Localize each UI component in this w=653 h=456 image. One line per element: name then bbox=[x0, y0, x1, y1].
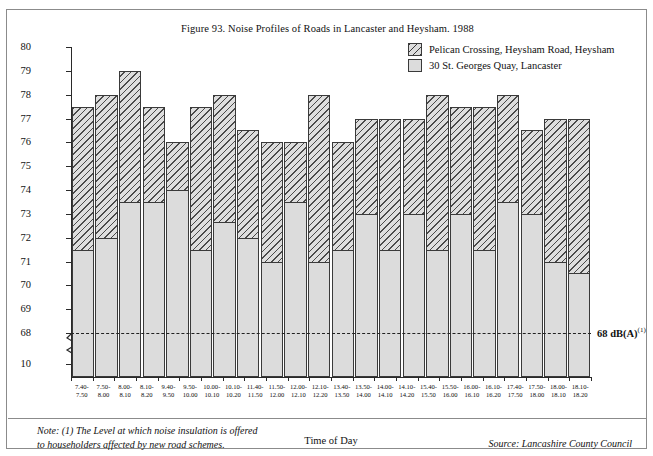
y-tick bbox=[66, 190, 71, 191]
bar-segment-georges-quay bbox=[379, 250, 401, 377]
x-tick bbox=[591, 377, 592, 381]
figure-source: Source: Lancashire County Council bbox=[489, 438, 632, 449]
threshold-dashed-line bbox=[71, 333, 591, 334]
bar-column bbox=[450, 47, 472, 377]
bar-column bbox=[284, 47, 306, 377]
bar-segment-georges-quay bbox=[166, 190, 188, 377]
x-tick-label: 18.10-18.20 bbox=[565, 383, 595, 399]
y-tick-label: 68 bbox=[1, 328, 31, 338]
figure-note: Note: (1) The Level at which noise insul… bbox=[37, 424, 257, 451]
y-tick bbox=[66, 47, 71, 48]
x-tick bbox=[483, 377, 484, 381]
y-tick bbox=[66, 309, 71, 310]
y-tick-label: 76 bbox=[1, 137, 31, 147]
bar-column bbox=[261, 47, 283, 377]
x-tick bbox=[223, 377, 224, 381]
x-tick bbox=[526, 377, 527, 381]
y-tick-label: 79 bbox=[1, 66, 31, 76]
bar-column bbox=[473, 47, 495, 377]
y-tick bbox=[66, 166, 71, 167]
bar-segment-georges-quay bbox=[568, 273, 590, 377]
figure-title: Figure 93. Noise Profiles of Roads in La… bbox=[7, 23, 648, 34]
y-tick-label: 80 bbox=[1, 42, 31, 52]
bar-column bbox=[166, 47, 188, 377]
bar-segment-georges-quay bbox=[237, 238, 259, 377]
y-tick bbox=[66, 71, 71, 72]
y-tick-label: 70 bbox=[1, 280, 31, 290]
x-tick bbox=[569, 377, 570, 381]
bar-segment-georges-quay bbox=[95, 238, 117, 377]
bar-column bbox=[213, 47, 235, 377]
y-tick bbox=[66, 285, 71, 286]
y-tick bbox=[66, 238, 71, 239]
y-tick-label: 71 bbox=[1, 257, 31, 267]
bar-column bbox=[355, 47, 377, 377]
y-tick-break bbox=[66, 364, 71, 365]
bar-column bbox=[119, 47, 141, 377]
bar-column bbox=[497, 47, 519, 377]
y-tick bbox=[66, 262, 71, 263]
bar-segment-georges-quay bbox=[119, 202, 141, 377]
x-tick bbox=[331, 377, 332, 381]
bar-column bbox=[190, 47, 212, 377]
x-tick bbox=[136, 377, 137, 381]
threshold-label: 68 dB(A)(1) bbox=[597, 326, 646, 339]
bar-segment-georges-quay bbox=[284, 202, 306, 377]
x-tick bbox=[461, 377, 462, 381]
x-tick bbox=[93, 377, 94, 381]
x-tick bbox=[396, 377, 397, 381]
bar-column bbox=[403, 47, 425, 377]
y-tick-label: 74 bbox=[1, 185, 31, 195]
x-tick bbox=[244, 377, 245, 381]
bar-column bbox=[72, 47, 94, 377]
x-tick bbox=[201, 377, 202, 381]
x-tick bbox=[71, 377, 72, 381]
bar-segment-georges-quay bbox=[72, 250, 94, 377]
x-tick bbox=[114, 377, 115, 381]
y-tick-label: 69 bbox=[1, 304, 31, 314]
bar-column bbox=[379, 47, 401, 377]
y-tick-label: 75 bbox=[1, 161, 31, 171]
x-tick bbox=[266, 377, 267, 381]
x-tick bbox=[548, 377, 549, 381]
x-tick bbox=[353, 377, 354, 381]
bar-segment-georges-quay bbox=[308, 262, 330, 378]
bar-segment-georges-quay bbox=[213, 222, 235, 377]
figure-frame: Figure 93. Noise Profiles of Roads in La… bbox=[6, 9, 647, 449]
x-tick bbox=[288, 377, 289, 381]
bar-segment-georges-quay bbox=[190, 250, 212, 377]
x-tick bbox=[504, 377, 505, 381]
x-tick bbox=[309, 377, 310, 381]
bar-segment-georges-quay bbox=[332, 250, 354, 377]
bar-column bbox=[568, 47, 590, 377]
bar-segment-georges-quay bbox=[521, 214, 543, 377]
y-tick-label: 77 bbox=[1, 114, 31, 124]
y-tick-label: 78 bbox=[1, 90, 31, 100]
x-tick bbox=[374, 377, 375, 381]
x-tick bbox=[158, 377, 159, 381]
bar-segment-georges-quay bbox=[497, 202, 519, 377]
y-tick-label-break: 10 bbox=[1, 359, 31, 369]
bar-segment-georges-quay bbox=[450, 214, 472, 377]
y-tick bbox=[66, 142, 71, 143]
bar-segment-georges-quay bbox=[426, 250, 448, 377]
bar-column bbox=[95, 47, 117, 377]
footer-divider bbox=[8, 418, 647, 419]
bar-column bbox=[308, 47, 330, 377]
bar-column bbox=[544, 47, 566, 377]
bar-column bbox=[332, 47, 354, 377]
y-tick bbox=[66, 214, 71, 215]
y-tick-label: 73 bbox=[1, 209, 31, 219]
x-tick bbox=[418, 377, 419, 381]
y-tick-label: 72 bbox=[1, 233, 31, 243]
plot-area: 7.40-7.507.50-8.008.00-8.108.10-8.209.40… bbox=[71, 47, 591, 377]
bar-column bbox=[521, 47, 543, 377]
bar-segment-georges-quay bbox=[473, 250, 495, 377]
bar-segment-georges-quay bbox=[403, 214, 425, 377]
bar-segment-georges-quay bbox=[261, 262, 283, 378]
bar-segment-georges-quay bbox=[544, 262, 566, 378]
y-tick bbox=[66, 119, 71, 120]
bar-column bbox=[143, 47, 165, 377]
x-tick bbox=[439, 377, 440, 381]
x-tick bbox=[179, 377, 180, 381]
